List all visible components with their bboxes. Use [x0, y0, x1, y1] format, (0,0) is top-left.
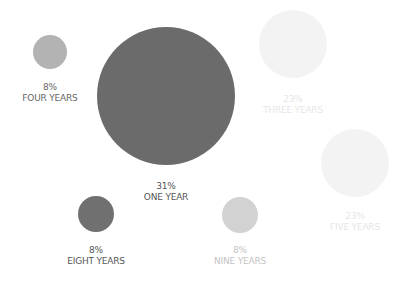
label-four-years: 8% FOUR YEARS [22, 82, 77, 104]
label-three-years: 23% THREE YEARS [263, 94, 323, 116]
pct-four-years: 8% [22, 82, 77, 93]
bubble-nine-years [222, 197, 258, 233]
bubble-four-years [33, 35, 67, 69]
name-one-year: ONE YEAR [144, 192, 188, 203]
pct-eight-years: 8% [67, 245, 125, 256]
pct-three-years: 23% [263, 94, 323, 105]
pct-nine-years: 8% [214, 245, 266, 256]
name-nine-years: NINE YEARS [214, 256, 266, 267]
bubble-three-years [259, 10, 327, 78]
label-nine-years: 8% NINE YEARS [214, 245, 266, 267]
name-five-years: FIVE YEARS [330, 222, 380, 233]
name-four-years: FOUR YEARS [22, 93, 77, 104]
pct-five-years: 23% [330, 211, 380, 222]
pct-one-year: 31% [144, 181, 188, 192]
name-eight-years: EIGHT YEARS [67, 256, 125, 267]
bubble-eight-years [78, 196, 114, 232]
bubble-five-years [321, 129, 389, 197]
bubble-one-year [97, 27, 235, 165]
name-three-years: THREE YEARS [263, 105, 323, 116]
label-eight-years: 8% EIGHT YEARS [67, 245, 125, 267]
label-one-year: 31% ONE YEAR [144, 181, 188, 203]
bubble-chart: 31% ONE YEAR 8% FOUR YEARS 23% THREE YEA… [0, 0, 414, 284]
label-five-years: 23% FIVE YEARS [330, 211, 380, 233]
